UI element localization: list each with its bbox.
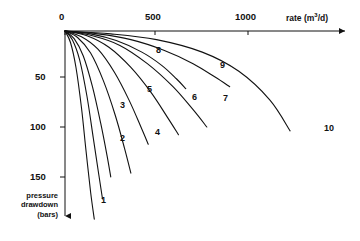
- curve-label-4: 4: [155, 128, 160, 137]
- curve-label-10: 10: [324, 124, 334, 133]
- curve-label-8: 8: [156, 46, 161, 55]
- x-tick-label-500: 500: [145, 12, 161, 22]
- y-axis-title: pressure drawdown (bars): [8, 191, 58, 219]
- curve-7: [65, 31, 207, 127]
- x-tick-label-0: 0: [59, 12, 64, 22]
- y-axis: [60, 31, 65, 216]
- curve-8: [65, 31, 186, 89]
- curve-label-3: 3: [120, 101, 125, 110]
- x-axis-title: rate (m3/d): [286, 13, 328, 22]
- curve-label-6: 6: [192, 93, 197, 102]
- curve-label-1: 1: [101, 196, 106, 205]
- y-tick-label-100: 100: [30, 122, 46, 132]
- x-tick-label-1000: 1000: [235, 12, 256, 22]
- curve-group: [65, 31, 290, 219]
- y-tick-label-150: 150: [30, 172, 46, 182]
- x-axis-title-main: rate (m: [286, 13, 314, 23]
- chart-figure: 0 500 1000 50 100 150 rate (m3/d) pressu…: [0, 0, 360, 241]
- curve-label-7: 7: [223, 94, 228, 103]
- y-axis-title-line2: drawdown: [8, 200, 58, 209]
- curve-5: [65, 31, 148, 144]
- y-axis-title-line1: pressure: [8, 191, 58, 200]
- curve-label-2: 2: [120, 134, 125, 143]
- y-axis-title-line3: (bars): [8, 210, 58, 219]
- y-tick-label-50: 50: [35, 72, 46, 82]
- curve-label-5: 5: [147, 85, 152, 94]
- x-axis-title-tail: /d): [318, 13, 328, 23]
- curve-label-9: 9: [220, 61, 225, 70]
